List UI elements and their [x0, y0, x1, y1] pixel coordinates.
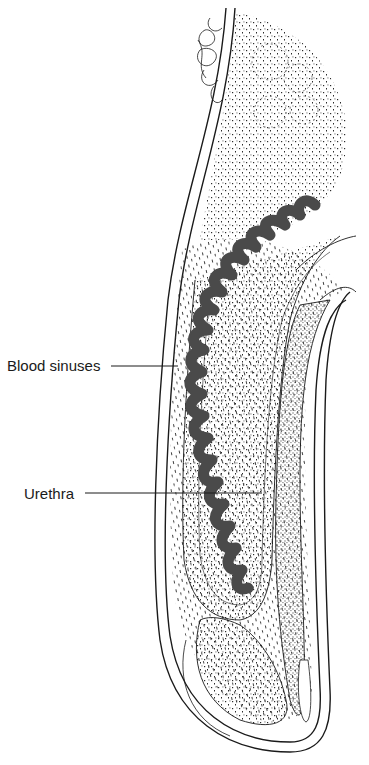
- label-urethra: Urethra: [24, 486, 74, 501]
- hair-tuft: [198, 18, 222, 103]
- diagram-canvas: Blood sinuses Urethra: [0, 0, 369, 765]
- anatomy-illustration: [0, 0, 369, 765]
- label-blood-sinuses: Blood sinuses: [7, 358, 100, 373]
